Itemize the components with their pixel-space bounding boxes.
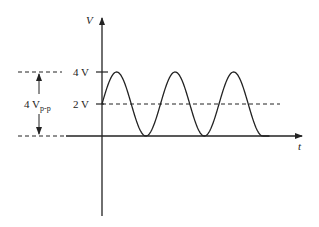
waveform-diagram: V t 4 Vp-p 4 V 2 V [0,0,319,227]
peak-to-peak-label: 4 Vp-p [24,98,51,113]
y-axis-label: V [86,14,94,26]
x-axis-label: t [298,140,302,152]
mid-level-label: 2 V [73,98,89,110]
max-level-label: 4 V [73,66,89,78]
